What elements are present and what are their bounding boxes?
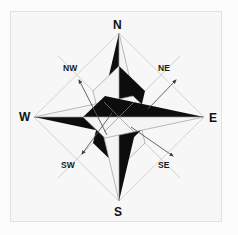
compass-label-northeast: NE <box>158 64 170 73</box>
compass-rose-figure: N E S W NE NW SE SW <box>0 0 238 235</box>
compass-label-southeast: SE <box>158 161 170 170</box>
compass-label-southwest: SW <box>61 161 75 170</box>
compass-rose-graphic <box>0 0 238 235</box>
compass-label-north: N <box>113 19 122 31</box>
compass-label-east: E <box>209 112 217 124</box>
compass-label-northwest: NW <box>63 64 78 73</box>
compass-point-east <box>83 96 204 138</box>
compass-label-south: S <box>114 206 122 218</box>
compass-label-west: W <box>19 111 30 123</box>
